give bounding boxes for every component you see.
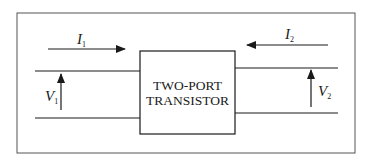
current-i2-label: I2	[284, 26, 294, 44]
voltage-v1-label: V1	[45, 88, 58, 106]
block-label-line2: TRANSISTOR	[146, 93, 229, 108]
voltage-v2-label: V2	[318, 83, 331, 101]
block-label-line1: TWO-PORT	[153, 78, 223, 93]
current-i1-label: I1	[76, 31, 86, 49]
two-port-diagram: TWO-PORT TRANSISTOR I1 I2 V1 V2	[0, 0, 372, 165]
